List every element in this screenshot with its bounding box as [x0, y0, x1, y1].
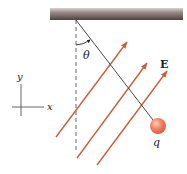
field-arrow-1 — [56, 42, 127, 137]
field-label: E — [160, 58, 168, 71]
axis-x-label: x — [47, 101, 53, 112]
electric-field-lines — [56, 42, 167, 165]
coordinate-axes — [12, 84, 44, 116]
pendulum-diagram: θ E q y x — [0, 0, 187, 174]
field-arrow-3 — [97, 71, 167, 165]
charged-ball — [150, 118, 166, 134]
axis-y-label: y — [16, 71, 23, 82]
ceiling — [50, 8, 183, 20]
angle-arc-icon — [76, 40, 90, 45]
charge-label: q — [153, 136, 160, 149]
angle-label: θ — [83, 49, 90, 62]
